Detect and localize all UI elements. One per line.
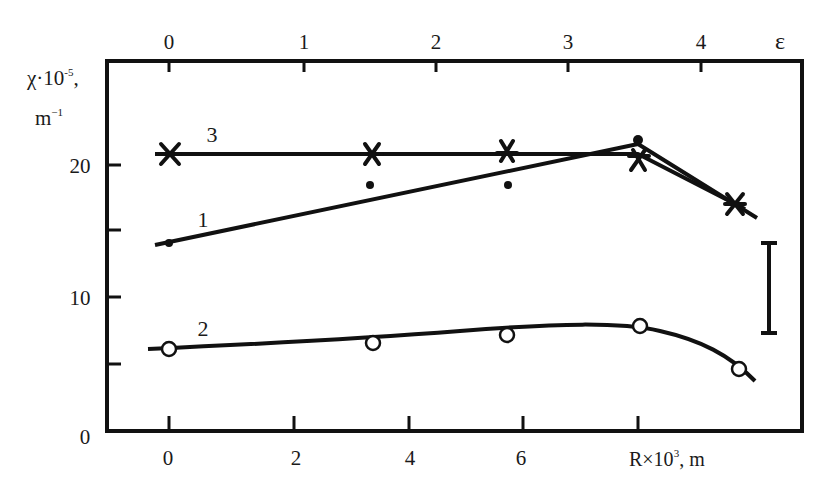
data-point [165, 239, 173, 247]
data-point [732, 362, 746, 376]
data-point [366, 181, 374, 189]
x-axis-ticks [169, 416, 638, 431]
curve-label-2: 2 [198, 316, 209, 341]
plot-frame [107, 61, 802, 431]
data-point [500, 328, 514, 342]
x-tick-label-0: 0 [163, 446, 174, 470]
chart: 20 10 0 0 2 4 6 R×103, m 0 1 2 3 4 ε χ·1… [0, 0, 834, 494]
asterisk-marker [497, 141, 517, 161]
curve-label-3: 3 [207, 122, 218, 147]
y-tick-label-20: 20 [70, 154, 91, 178]
asterisk-marker [362, 144, 382, 164]
y-axis-title-main: χ·10 [26, 66, 64, 90]
x-tick-label-4: 4 [405, 446, 416, 470]
top-tick-label-4: 4 [696, 30, 707, 54]
top-tick-label-1: 1 [299, 30, 310, 54]
error-bar [761, 243, 777, 333]
series-3-markers [160, 141, 745, 214]
x-axis-title: R×103, m [629, 447, 705, 470]
y-axis-title-comma: , [74, 66, 79, 90]
top-tick-label-3: 3 [563, 30, 574, 54]
y-axis-ticks [107, 165, 121, 364]
series-2-line [148, 325, 755, 381]
asterisk-marker [160, 144, 180, 164]
series-2-markers [162, 319, 746, 376]
y-axis-unit: m−1 [35, 106, 63, 130]
y-tick-label-0: 0 [80, 425, 91, 449]
data-point [633, 319, 647, 333]
top-tick-label-0: 0 [164, 30, 175, 54]
series-1-line [155, 144, 757, 245]
asterisk-marker [725, 194, 745, 214]
data-point [162, 342, 176, 356]
x-tick-label-6: 6 [516, 446, 527, 470]
x-axis-title-unit: , m [679, 448, 705, 470]
top-tick-label-2: 2 [431, 30, 442, 54]
data-point [366, 336, 380, 350]
top-axis-title: ε [775, 28, 785, 54]
y-axis-unit-exp: −1 [51, 106, 63, 118]
x-axis-title-main: R×10 [629, 448, 674, 470]
y-tick-label-10: 10 [70, 286, 91, 310]
y-axis-title: χ·10-5, [26, 66, 79, 90]
data-point [504, 181, 512, 189]
x-tick-label-2: 2 [291, 446, 302, 470]
curve-label-1: 1 [198, 207, 209, 232]
y-axis-unit-main: m [35, 106, 51, 130]
data-point [633, 135, 643, 145]
